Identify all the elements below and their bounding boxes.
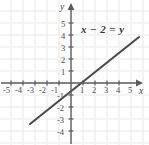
x-tick-label-2: 2 [92,86,96,95]
y-tick-label-1: 1 [61,68,65,77]
x-axis-label: x [139,87,143,97]
x-tick-label-neg4: -4 [15,86,22,95]
x-tick-label-neg2: -2 [39,86,46,95]
grid-lines [0,0,149,145]
coordinate-plane-svg [0,0,149,145]
x-tick-label-neg3: -3 [27,86,34,95]
y-tick-label-neg1: -1 [57,92,64,101]
x-tick-label-neg5: -5 [3,86,10,95]
y-tick-label-3: 3 [61,44,65,53]
x-tick-label-3: 3 [104,86,108,95]
y-tick-label-2: 2 [61,56,65,65]
y-tick-label-neg3: -3 [57,116,64,125]
equation-annotation: x − 2 = y [81,24,124,35]
graph-figure: -5 -4 -3 -2 -1 1 2 3 4 5 1 2 3 4 5 -1 -2… [0,0,149,145]
y-tick-label-5: 5 [61,20,65,29]
y-axis-label: y [60,3,64,13]
x-tick-label-4: 4 [116,86,120,95]
x-tick-label-5: 5 [128,86,132,95]
y-axis-arrowhead [68,3,75,10]
y-tick-label-4: 4 [61,32,65,41]
x-tick-label-1: 1 [80,86,84,95]
y-tick-label-neg4: -4 [57,128,64,137]
y-tick-label-neg2: -2 [57,104,64,113]
